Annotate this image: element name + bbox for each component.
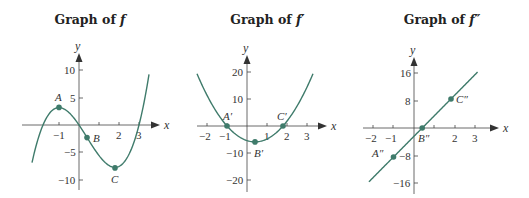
y-axis-arrow-icon (76, 53, 83, 62)
x-ticks (59, 122, 139, 125)
curve-f-prime (197, 74, 313, 142)
x-tick-label: 3 (472, 132, 478, 144)
plot-f-prime: x y −2 −1 1 2 3 20 10 −10 −20 A′ B′ C′ (180, 0, 355, 198)
point-label-b-prime: B′ (254, 147, 264, 159)
y-axis-label: y (74, 39, 81, 53)
x-tick-label: 3 (304, 130, 310, 142)
plot-f: x y −1 2 3 10 5 −5 −10 A B C (0, 0, 180, 198)
x-tick-label: 2 (116, 129, 122, 141)
y-axis-arrow-icon (411, 57, 418, 66)
point-label-c-double-prime: C″ (456, 93, 468, 105)
y-tick-label: −10 (226, 147, 244, 159)
point-label-b-double-prime: B″ (418, 132, 430, 144)
point-b-double-prime (419, 125, 425, 131)
y-axis-arrow-icon (244, 55, 251, 64)
x-tick-label: 2 (284, 130, 290, 142)
y-tick-label: 16 (400, 67, 412, 79)
y-tick-label: 8 (405, 95, 411, 107)
y-tick-label: −20 (226, 174, 244, 186)
y-tick-label: 5 (70, 92, 76, 104)
y-axis-label: y (409, 43, 416, 57)
point-label-a-prime: A′ (222, 110, 233, 122)
x-tick-label: −2 (365, 132, 377, 144)
x-axis-label: x (502, 121, 509, 135)
panel-graph-f: Graph of f x y −1 2 3 10 5 −5 −10 A B (0, 0, 180, 198)
curve-f (32, 74, 149, 167)
x-tick-label: −1 (53, 129, 65, 141)
point-a (56, 105, 62, 111)
point-label-c: C (111, 173, 119, 185)
x-tick-label: −2 (199, 130, 211, 142)
y-tick-label: 20 (232, 66, 244, 78)
point-c-double-prime (448, 96, 454, 102)
point-c (112, 165, 118, 171)
x-tick-label: −1 (219, 130, 231, 142)
y-tick-label: −8 (399, 150, 411, 162)
point-b (84, 135, 90, 141)
y-tick-label: 10 (232, 93, 244, 105)
point-c-prime (280, 123, 286, 129)
y-tick-label: −16 (393, 177, 411, 189)
plot-f-double-prime: x y −2 −1 2 3 16 8 −8 −16 A″ B″ C″ (355, 0, 529, 198)
y-tick-label: −5 (64, 146, 76, 158)
x-axis-label: x (330, 119, 337, 133)
point-b-prime (252, 139, 258, 145)
y-tick-label: −10 (58, 174, 76, 186)
point-a-prime (224, 123, 230, 129)
panel-graph-f-prime: Graph of f′ x y −2 −1 1 2 3 20 10 −10 −2… (180, 0, 355, 198)
point-label-c-prime: C′ (277, 110, 287, 122)
y-axis-label: y (242, 41, 249, 55)
panel-graph-f-double-prime: Graph of f″ x y −2 −1 2 3 16 8 −8 −16 A″… (355, 0, 529, 198)
x-tick-label: −1 (385, 132, 397, 144)
x-axis-arrow-icon (318, 123, 327, 130)
x-tick-label: 2 (452, 132, 458, 144)
x-ticks (207, 123, 307, 126)
y-tick-label: 10 (64, 64, 76, 76)
x-axis-arrow-icon (151, 122, 160, 129)
x-axis-arrow-icon (490, 125, 499, 132)
point-a-double-prime (391, 154, 397, 160)
point-label-b: B (93, 132, 100, 144)
point-label-a-double-prime: A″ (371, 147, 384, 159)
point-label-a: A (54, 91, 62, 103)
x-axis-label: x (163, 118, 170, 132)
